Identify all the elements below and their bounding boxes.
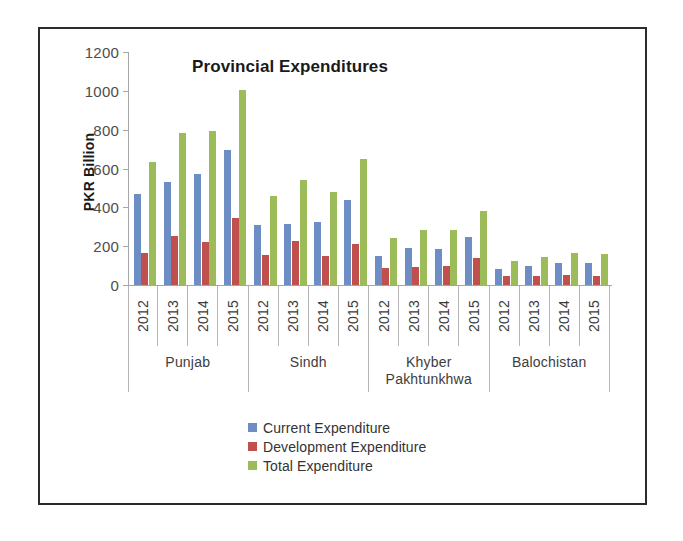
x-axis-year-label: 2013 bbox=[406, 300, 422, 332]
y-axis-tick-label: 200 bbox=[93, 238, 119, 255]
x-axis-year-label: 2013 bbox=[165, 300, 181, 332]
bar-total bbox=[330, 192, 337, 285]
x-axis-year-cell: 2014 bbox=[429, 286, 459, 346]
bar-current bbox=[254, 225, 261, 285]
bar-development bbox=[473, 258, 480, 285]
bar-development bbox=[563, 275, 570, 285]
x-axis-year-label: 2012 bbox=[135, 300, 151, 332]
bar-group bbox=[430, 52, 460, 285]
x-axis-province-label: Balochistan bbox=[512, 354, 587, 371]
x-axis-year-cell: 2014 bbox=[188, 286, 218, 346]
x-axis-year-label: 2014 bbox=[556, 300, 572, 332]
bar-group bbox=[370, 52, 400, 285]
bar-current bbox=[435, 249, 442, 285]
legend-item[interactable]: Development Expenditure bbox=[248, 437, 426, 456]
bar-group bbox=[491, 52, 521, 285]
bar-current bbox=[375, 256, 382, 286]
x-axis-year-label: 2015 bbox=[225, 300, 241, 332]
y-axis-tick-label: 400 bbox=[93, 199, 119, 216]
y-axis-tick-label: 600 bbox=[93, 160, 119, 177]
x-axis-year-label: 2014 bbox=[436, 300, 452, 332]
legend-item[interactable]: Current Expenditure bbox=[248, 418, 426, 437]
x-axis-year-cell: 2012 bbox=[128, 286, 158, 346]
legend-label: Development Expenditure bbox=[263, 439, 426, 455]
bar-total bbox=[179, 133, 186, 285]
bar-development bbox=[202, 242, 209, 285]
x-axis-province-label: Khyber Pakhtunkhwa bbox=[369, 354, 489, 388]
bar-total bbox=[239, 90, 246, 285]
x-axis-year-cell: 2013 bbox=[158, 286, 188, 346]
bar-development bbox=[262, 255, 269, 285]
y-axis-tick bbox=[123, 207, 128, 208]
bar-current bbox=[344, 200, 351, 285]
bar-current bbox=[314, 222, 321, 285]
bar-series-container bbox=[129, 52, 611, 285]
x-axis-year-label: 2015 bbox=[586, 300, 602, 332]
x-axis-year-cell: 2013 bbox=[399, 286, 429, 346]
bar-current bbox=[194, 174, 201, 285]
y-axis-tick-label: 800 bbox=[93, 121, 119, 138]
bar-group bbox=[250, 52, 280, 285]
legend-swatch-icon bbox=[248, 461, 257, 470]
x-axis-year-cell: 2015 bbox=[459, 286, 489, 346]
bar-total bbox=[390, 238, 397, 285]
x-axis-province-cell: Sindh bbox=[249, 346, 370, 392]
bar-development bbox=[382, 268, 389, 285]
bar-total bbox=[300, 180, 307, 285]
x-axis-year-cell: 2015 bbox=[339, 286, 369, 346]
bar-total bbox=[571, 253, 578, 285]
bar-group bbox=[340, 52, 370, 285]
bar-group bbox=[460, 52, 490, 285]
y-axis-tick-label: 1200 bbox=[85, 44, 119, 61]
x-axis-year-label: 2013 bbox=[285, 300, 301, 332]
bar-group bbox=[521, 52, 551, 285]
y-axis-tick-label: 0 bbox=[110, 277, 119, 294]
x-axis-year-label: 2014 bbox=[195, 300, 211, 332]
x-axis-year-cell: 2012 bbox=[249, 286, 279, 346]
bar-group bbox=[400, 52, 430, 285]
bar-development bbox=[412, 267, 419, 285]
x-axis-year-cell: 2014 bbox=[550, 286, 580, 346]
x-axis-province-cell: Punjab bbox=[128, 346, 249, 392]
x-axis-province-cell: Balochistan bbox=[490, 346, 611, 392]
x-axis-province-label: Sindh bbox=[290, 354, 327, 371]
x-axis-year-cell: 2013 bbox=[279, 286, 309, 346]
legend-swatch-icon bbox=[248, 423, 257, 432]
bar-current bbox=[465, 237, 472, 285]
x-axis-year-cell: 2012 bbox=[369, 286, 399, 346]
bar-development bbox=[171, 236, 178, 285]
legend-item[interactable]: Total Expenditure bbox=[248, 456, 426, 475]
x-axis-year-cell: 2014 bbox=[309, 286, 339, 346]
x-axis-year-label: 2012 bbox=[255, 300, 271, 332]
legend-swatch-icon bbox=[248, 442, 257, 451]
bar-total bbox=[209, 131, 216, 285]
bar-current bbox=[525, 266, 532, 285]
x-axis-year-cell: 2012 bbox=[490, 286, 520, 346]
x-axis-year-cell: 2015 bbox=[218, 286, 248, 346]
x-axis-year-label: 2015 bbox=[345, 300, 361, 332]
bar-group bbox=[159, 52, 189, 285]
x-axis-year-label: 2012 bbox=[376, 300, 392, 332]
bar-total bbox=[601, 254, 608, 285]
bar-current bbox=[495, 269, 502, 285]
bar-group bbox=[219, 52, 249, 285]
bar-development bbox=[593, 276, 600, 285]
y-axis-tick bbox=[123, 130, 128, 131]
bar-total bbox=[360, 159, 367, 285]
bar-group bbox=[189, 52, 219, 285]
bar-current bbox=[405, 248, 412, 285]
x-axis-year-label: 2013 bbox=[526, 300, 542, 332]
bar-group bbox=[581, 52, 611, 285]
bar-group bbox=[280, 52, 310, 285]
x-axis-year-label: 2012 bbox=[496, 300, 512, 332]
y-axis-tick-label: 1000 bbox=[85, 82, 119, 99]
bar-total bbox=[511, 261, 518, 285]
bar-total bbox=[149, 162, 156, 285]
bar-group bbox=[551, 52, 581, 285]
bar-group bbox=[310, 52, 340, 285]
bar-development bbox=[292, 241, 299, 285]
bar-development bbox=[141, 253, 148, 285]
bar-current bbox=[134, 194, 141, 285]
category-axis-table: 2012201320142015201220132014201520122013… bbox=[128, 286, 612, 392]
bar-total bbox=[420, 230, 427, 285]
